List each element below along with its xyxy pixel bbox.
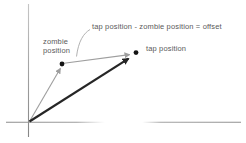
zombie-position-label-line1: zombie bbox=[43, 37, 70, 46]
tap-position-point bbox=[134, 50, 139, 55]
offset-vector bbox=[64, 55, 130, 64]
zombie-position-label: zombie position bbox=[43, 37, 70, 55]
zombie-position-point bbox=[60, 62, 65, 67]
tap-position-label: tap position bbox=[146, 44, 186, 53]
callout-leader-line bbox=[77, 30, 91, 57]
tap-position-vector bbox=[30, 59, 129, 122]
zombie-position-vector bbox=[30, 69, 61, 122]
offset-formula-label: tap position - zombie position = offset bbox=[92, 22, 222, 31]
vector-offset-diagram: tap position - zombie position = offset … bbox=[0, 0, 246, 143]
zombie-position-label-line2: position bbox=[43, 46, 70, 55]
